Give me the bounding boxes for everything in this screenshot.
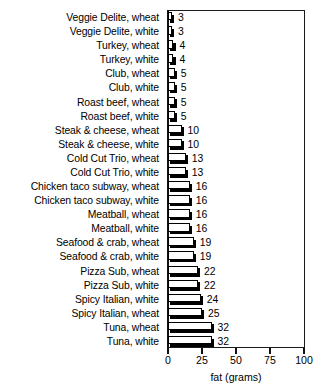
- category-label: Chicken taco subway, wheat: [31, 181, 159, 192]
- bar-row: Meatball, white16: [0, 221, 323, 235]
- bar: [168, 12, 175, 22]
- category-label: Tuna, white: [107, 335, 159, 346]
- category-label: Veggie Delite, white: [70, 26, 159, 37]
- bar: [168, 97, 178, 107]
- bar-row: Spicy Italian, wheat25: [0, 306, 323, 320]
- x-tick-label: 0: [165, 354, 171, 366]
- bar-value-label: 13: [192, 152, 204, 163]
- bar-row: Turkey, wheat4: [0, 38, 323, 52]
- bar: [168, 167, 189, 177]
- bar: [168, 294, 204, 304]
- bar-body: [168, 266, 198, 274]
- bar-value-label: 3: [178, 12, 184, 23]
- bar-row: Roast beef, wheat5: [0, 95, 323, 109]
- bar-body: [168, 322, 212, 330]
- x-tick-label: 100: [295, 354, 313, 366]
- bar: [168, 322, 215, 332]
- bar: [168, 26, 175, 36]
- bar-row: Seafood & crab, wheat19: [0, 235, 323, 249]
- x-axis-title: fat (grams): [167, 371, 305, 383]
- category-label: Meatball, white: [91, 223, 159, 234]
- x-tick-label: 25: [196, 354, 208, 366]
- category-label: Steak & cheese, white: [58, 138, 159, 149]
- bar-body: [168, 54, 173, 62]
- bar-body: [168, 12, 172, 20]
- bar-row: Veggie Delite, white3: [0, 24, 323, 38]
- bar: [168, 125, 185, 135]
- bar-row: Roast beef, white5: [0, 109, 323, 123]
- bar: [168, 251, 197, 261]
- bar-body: [168, 40, 173, 48]
- bar-row: Tuna, white32: [0, 334, 323, 348]
- x-tick-mark: [269, 348, 271, 354]
- x-tick-label: 75: [264, 354, 276, 366]
- category-label: Cold Cut Trio, white: [70, 166, 159, 177]
- bar-value-label: 10: [188, 124, 200, 135]
- bar: [168, 195, 193, 205]
- bar-body: [168, 167, 186, 175]
- category-label: Meatball, wheat: [88, 209, 159, 220]
- bar-body: [168, 195, 190, 203]
- category-label: Spicy Italian, white: [75, 293, 159, 304]
- bar: [168, 308, 205, 318]
- x-tick-mark: [201, 348, 203, 354]
- bar: [168, 139, 185, 149]
- bar: [168, 54, 176, 64]
- category-label: Tuna, wheat: [103, 321, 159, 332]
- category-label: Turkey, wheat: [96, 40, 159, 51]
- bar-value-label: 10: [188, 138, 200, 149]
- bar-body: [168, 237, 194, 245]
- bar-value-label: 16: [196, 209, 208, 220]
- bar-row: Chicken taco subway, wheat16: [0, 179, 323, 193]
- bar: [168, 237, 197, 247]
- bar-body: [168, 308, 202, 316]
- bar-row: Pizza Sub, wheat22: [0, 264, 323, 278]
- bar: [168, 153, 189, 163]
- bar: [168, 40, 176, 50]
- bar-body: [168, 139, 182, 147]
- bar-body: [168, 153, 186, 161]
- bar: [168, 209, 193, 219]
- bar-value-label: 5: [181, 68, 187, 79]
- bar-value-label: 4: [179, 40, 185, 51]
- bar-row: Chicken taco subway, white16: [0, 193, 323, 207]
- bar-value-label: 22: [204, 265, 216, 276]
- bar-value-label: 16: [196, 223, 208, 234]
- bar-value-label: 24: [207, 293, 219, 304]
- bar: [168, 280, 201, 290]
- bar-body: [168, 125, 182, 133]
- category-label: Veggie Delite, wheat: [66, 12, 159, 23]
- bar-body: [168, 251, 194, 259]
- bar-row: Club, wheat5: [0, 66, 323, 80]
- category-label: Roast beef, white: [80, 110, 159, 121]
- bar-row: Cold Cut Trio, wheat13: [0, 151, 323, 165]
- bar-row: Spicy Italian, white24: [0, 292, 323, 306]
- bar-row: Steak & cheese, wheat10: [0, 123, 323, 137]
- bar-value-label: 32: [218, 335, 230, 346]
- category-label: Steak & cheese, wheat: [55, 124, 159, 135]
- bar-value-label: 22: [204, 279, 216, 290]
- x-axis-ticks: 0255075100: [0, 348, 323, 356]
- bar-row: Club, white5: [0, 80, 323, 94]
- category-label: Club, wheat: [105, 68, 159, 79]
- bar-value-label: 5: [181, 82, 187, 93]
- bar-body: [168, 111, 175, 119]
- bar-body: [168, 209, 190, 217]
- bar-body: [168, 26, 172, 34]
- category-label: Spicy Italian, wheat: [71, 307, 159, 318]
- bar-row: Seafood & crab, white19: [0, 249, 323, 263]
- bar-row: Meatball, wheat16: [0, 207, 323, 221]
- bar-body: [168, 336, 212, 344]
- category-label: Cold Cut Trio, wheat: [67, 152, 159, 163]
- bar-value-label: 16: [196, 181, 208, 192]
- bar: [168, 223, 193, 233]
- x-tick-mark: [303, 348, 305, 354]
- category-label: Pizza Sub, wheat: [80, 265, 159, 276]
- bar-rows: Veggie Delite, wheat3Veggie Delite, whit…: [0, 10, 323, 348]
- x-tick-label: 50: [230, 354, 242, 366]
- bar: [168, 181, 193, 191]
- bar: [168, 111, 178, 121]
- category-label: Turkey, white: [100, 54, 159, 65]
- bar-body: [168, 97, 175, 105]
- bar: [168, 82, 178, 92]
